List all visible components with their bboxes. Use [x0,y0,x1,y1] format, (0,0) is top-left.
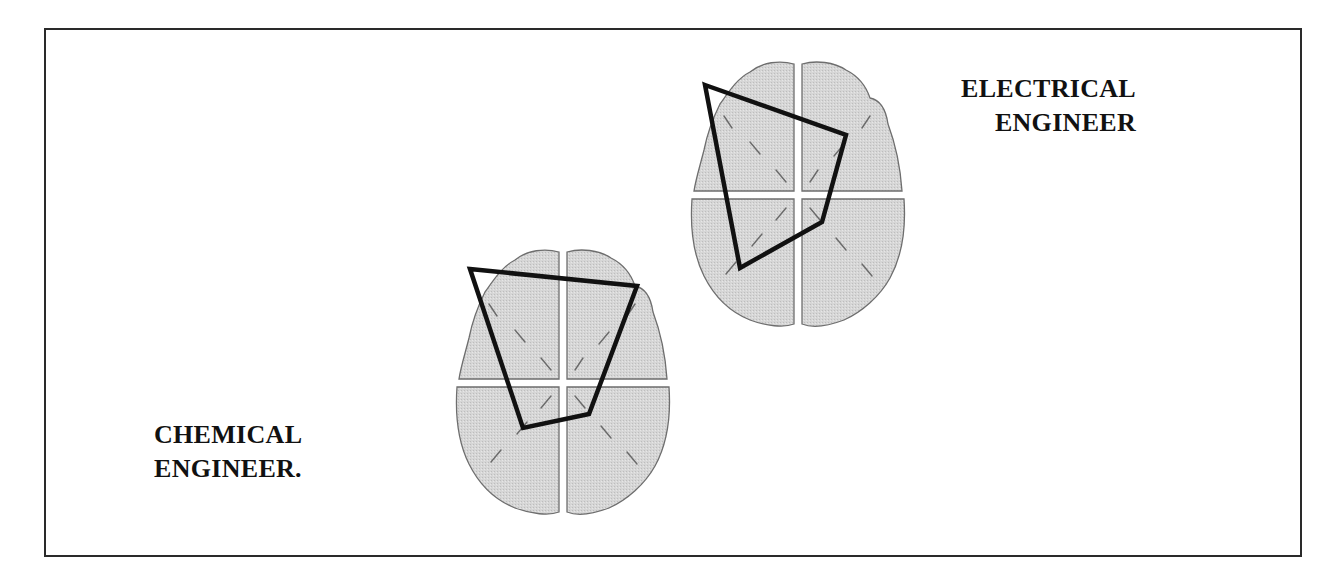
label-electrical-engineer: ELECTRICAL ENGINEER [930,72,1136,140]
brain-electrical [692,62,905,326]
label-line-1: ELECTRICAL [930,72,1136,106]
label-line-2: ENGINEER [930,106,1136,140]
label-chemical-engineer: CHEMICAL ENGINEER. [154,418,354,486]
label-line-2: ENGINEER. [154,452,354,486]
label-line-1: CHEMICAL [154,418,354,452]
diagram-canvas [0,0,1338,581]
